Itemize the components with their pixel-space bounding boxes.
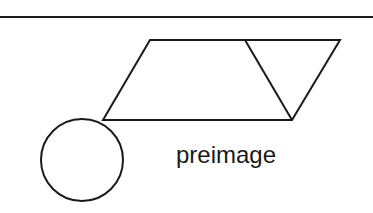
parallelogram bbox=[103, 40, 340, 120]
triangle-diagonal bbox=[245, 40, 292, 120]
diagram-canvas: preimage bbox=[0, 0, 373, 213]
preimage-label: preimage bbox=[176, 143, 276, 167]
diagram-svg bbox=[0, 0, 373, 213]
circle bbox=[41, 119, 123, 201]
